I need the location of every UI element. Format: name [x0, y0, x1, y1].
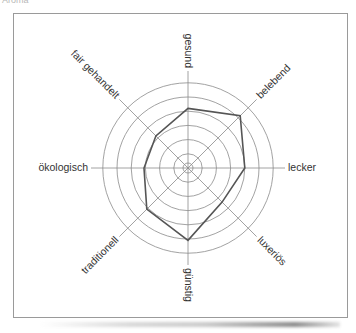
axis-line	[119, 99, 188, 168]
axis-label: lecker	[288, 161, 317, 173]
bottom-shadow	[40, 322, 340, 327]
radar-axes	[91, 71, 285, 265]
axis-label: belebend	[254, 62, 293, 101]
axis-line	[119, 168, 188, 237]
radar-chart: gesundbelebendleckerluxeriösgünstigtradi…	[0, 0, 356, 333]
axis-label: ökologisch	[38, 161, 88, 173]
axis-label: günstig	[183, 268, 195, 302]
axis-label: gesund	[183, 34, 195, 69]
axis-label: traditionell	[78, 234, 120, 276]
axis-label: fair gehandelt	[69, 47, 123, 101]
axis-label: luxeriös	[255, 234, 289, 268]
